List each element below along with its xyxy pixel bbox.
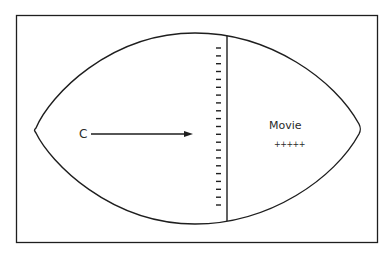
diagram-canvas: C Movie +++++ — [0, 0, 392, 254]
positive-charges: +++++ — [274, 140, 305, 149]
frame-border — [17, 16, 378, 243]
arrow-head-icon — [184, 131, 193, 137]
source-label: C — [79, 127, 87, 141]
negative-charges — [216, 48, 221, 205]
target-label: Movie — [269, 119, 302, 132]
